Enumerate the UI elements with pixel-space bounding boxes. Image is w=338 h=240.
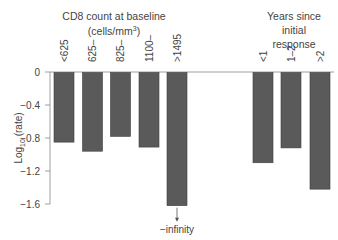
y-tick-label: 0: [34, 67, 40, 78]
bars: [54, 73, 330, 206]
category-label: >2: [315, 50, 326, 62]
bar: [139, 73, 159, 148]
group-title: CD8 count at baseline: [62, 10, 165, 22]
y-tick-label: −1.6: [20, 199, 40, 210]
annotations: −infinity: [160, 208, 194, 235]
category-label: <625: [59, 39, 70, 62]
group-title: (cells/mm3): [88, 25, 140, 37]
bar: [253, 73, 273, 163]
category-label: <1: [258, 50, 269, 62]
y-tick-label: −0.4: [20, 100, 40, 111]
bar: [310, 73, 330, 190]
bar: [54, 73, 74, 143]
arrow-down-icon: [175, 218, 179, 222]
group-title: initial: [282, 24, 306, 36]
bar: [167, 73, 187, 206]
group-title: Years since: [267, 10, 321, 22]
bar: [111, 73, 131, 137]
category-label: 825–: [115, 39, 126, 62]
category-label: >1495: [172, 33, 183, 62]
category-label: 1100–: [144, 34, 155, 62]
bar: [281, 73, 301, 148]
y-tick-label: −1.2: [20, 166, 40, 177]
group-titles: CD8 count at baseline(cells/mm3)Years si…: [62, 10, 321, 50]
category-label: 1–2: [286, 45, 297, 62]
infinity-annotation: −infinity: [160, 224, 194, 235]
category-label: 625–: [87, 39, 98, 62]
bar: [83, 73, 103, 152]
bar-chart: CD8 count at baseline(cells/mm3)Years si…: [0, 0, 338, 240]
